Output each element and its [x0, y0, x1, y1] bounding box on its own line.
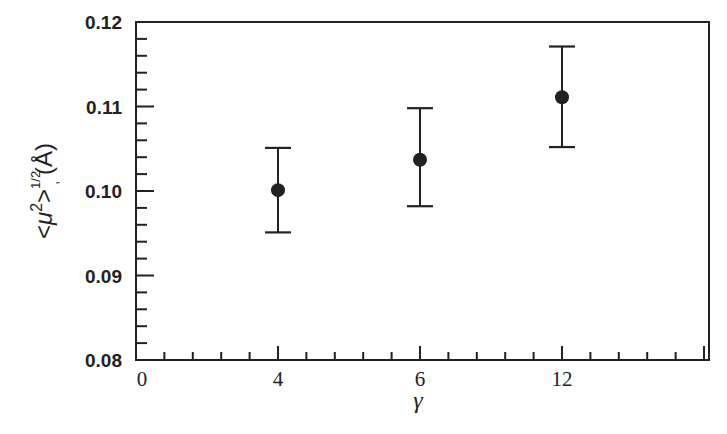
y-tick-label: 0.08: [85, 350, 122, 371]
data-point: [407, 108, 433, 206]
ylabel-open: <: [30, 225, 57, 239]
chart: 0.080.090.100.110.12 04612 γ <μ2>1/2,(Å): [0, 0, 727, 434]
y-tick-label: 0.11: [86, 97, 122, 118]
plot-frame: [136, 22, 709, 360]
marker-circle-icon: [271, 183, 285, 197]
data-point: [265, 148, 291, 233]
y-axis-tick-labels: 0.080.090.100.110.12: [85, 12, 122, 371]
y-tick-label: 0.12: [85, 12, 122, 33]
svg-text:<μ2>1/2,(Å): <μ2>1/2,(Å): [28, 143, 61, 239]
data-point: [549, 47, 575, 148]
y-tick-label: 0.10: [85, 181, 122, 202]
x-tick-label: 0: [137, 367, 148, 391]
ylabel-mu: μ: [30, 212, 57, 226]
ylabel-unit: (Å): [30, 143, 57, 175]
x-tick-label: 4: [273, 367, 284, 391]
x-axis-label: γ: [413, 387, 423, 413]
plot-border: [136, 22, 709, 360]
ylabel-close: >: [30, 189, 57, 203]
y-axis-ticks: [136, 22, 154, 360]
y-tick-label: 0.09: [85, 266, 122, 287]
x-axis-tick-labels: 04612: [137, 367, 573, 391]
y-axis-label: <μ2>1/2,(Å): [28, 143, 61, 239]
x-axis-ticks: [164, 346, 704, 360]
ylabel-comma: ,: [45, 181, 61, 185]
x-tick-label: 12: [552, 367, 573, 391]
ylabel-sup2: 2: [28, 203, 45, 212]
data-series: [265, 47, 575, 233]
marker-circle-icon: [413, 153, 427, 167]
marker-circle-icon: [555, 90, 569, 104]
